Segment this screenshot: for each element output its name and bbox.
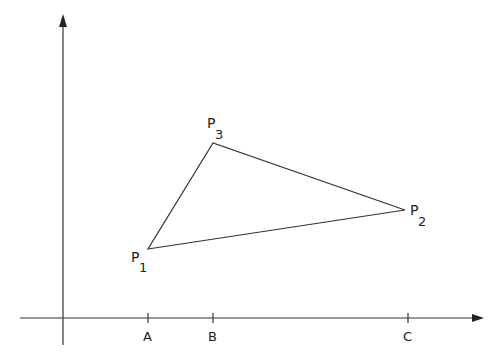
- y-axis-arrow-icon: [59, 14, 67, 27]
- tick-label-b: B: [208, 329, 217, 344]
- tick-label-c: C: [403, 329, 412, 344]
- triangle-diagram: A B C P 1 P 2 P 3: [0, 0, 503, 364]
- diagram-svg: A B C P 1 P 2 P 3: [0, 0, 503, 364]
- point-sub-p3: 3: [215, 127, 223, 142]
- triangle: [148, 143, 405, 249]
- x-axis-arrow-icon: [472, 314, 484, 322]
- point-sub-p2: 2: [418, 214, 426, 229]
- tick-label-a: A: [143, 329, 152, 344]
- point-sub-p1: 1: [139, 260, 147, 275]
